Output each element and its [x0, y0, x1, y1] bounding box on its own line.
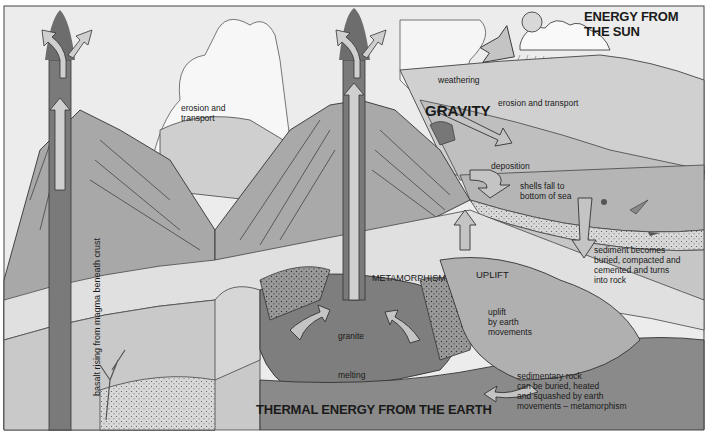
sedimentary-rock-label: sedimentary rock can be buried, heated a…: [517, 371, 627, 411]
shell-icon: [601, 199, 607, 205]
weathering-label: weathering: [438, 75, 480, 85]
erosion-transport-left-label: erosion and transport: [181, 103, 225, 123]
energy-from-sun-label: ENERGY FROM THE SUN: [584, 9, 678, 39]
shells-label: shells fall to bottom of sea: [520, 181, 572, 201]
sun-icon: [522, 12, 542, 32]
thermal-energy-label: THERMAL ENERGY FROM THE EARTH: [256, 402, 492, 417]
metamorphism-label: METAMORPHISM: [372, 273, 446, 283]
deposition-label: deposition: [491, 161, 530, 171]
basalt-rising-label: basalt rising from magma beneath crust: [92, 238, 102, 396]
gravity-label: GRAVITY: [425, 106, 491, 116]
sediment-label: sediment becomes buried, compacted and c…: [594, 245, 680, 285]
erosion-transport-right-label: erosion and transport: [498, 98, 578, 108]
granite-label: granite: [338, 331, 364, 341]
uplift-earth-movements-label: uplift by earth movements: [488, 307, 532, 337]
rock-cycle-diagram: ENERGY FROM THE SUN weathering erosion a…: [0, 0, 705, 435]
melting-label: melting: [338, 370, 365, 380]
uplift-label: UPLIFT: [476, 270, 509, 280]
